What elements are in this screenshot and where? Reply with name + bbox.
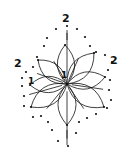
outline-dot [25,71,27,73]
outline-dot [107,69,109,71]
number-label-1: 1 [28,76,34,86]
outline-dot [21,77,23,79]
number-labels: 22211 [14,12,118,86]
outline-dot [106,107,108,109]
outline-dot [89,45,91,47]
number-label-2: 2 [62,12,70,25]
outline-dot [67,145,69,147]
petal-lines [29,30,105,145]
petal-tip-dot [93,52,95,54]
outline-dot [40,115,42,117]
vein-line-6 [69,87,83,108]
outline-dot [109,79,111,81]
outline-dot [110,99,112,101]
outline-dot [55,28,57,30]
outline-dot [47,121,49,123]
outline-dot [23,95,25,97]
petal-tip-dot [66,124,68,126]
outline-dot [66,25,68,27]
outline-dot [21,85,23,87]
petal-tip-dot [64,44,66,46]
outline-dot [51,129,53,131]
outline-dot [95,113,97,115]
number-label-2: 2 [110,54,118,67]
petal-tip-dot [37,59,39,61]
outline-dot [104,54,106,56]
petal-4 [31,83,67,107]
outline-dot [78,121,80,123]
number-label-1: 1 [61,70,67,80]
outline-dot [23,105,25,107]
outline-dot [86,117,88,119]
petal-tip-dot [104,76,106,78]
number-label-2: 2 [14,57,22,70]
center-dot [66,83,69,86]
outline-dot [84,36,86,38]
petal-tip-dot [103,106,105,108]
dot-to-dot-diagram: 22211 [0,0,126,154]
outline-dot [32,116,34,118]
outline-dot [57,140,59,142]
outline-dot [75,132,77,134]
outline-dot [32,66,34,68]
outline-dot [36,56,38,58]
outline-dot [43,45,45,47]
outline-dot [95,51,97,53]
petal-tip-dot [30,106,32,108]
outline-dot [108,89,110,91]
outline-dot [76,28,78,30]
outline-dot [46,37,48,39]
vein-line-5 [47,87,64,108]
